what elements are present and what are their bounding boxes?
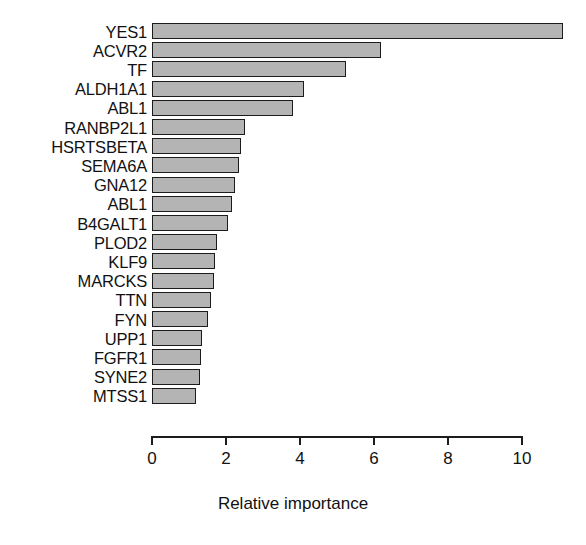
bar xyxy=(152,138,241,154)
bar-row: SYNE2 xyxy=(0,368,586,387)
bar-row: B4GALT1 xyxy=(0,214,586,233)
bar-row: ACVR2 xyxy=(0,41,586,60)
category-label: YES1 xyxy=(106,23,147,40)
bar xyxy=(152,177,235,193)
x-axis-tick-label: 4 xyxy=(295,450,304,467)
bar xyxy=(152,196,232,212)
x-axis-tick xyxy=(447,436,449,445)
bar-row: GNA12 xyxy=(0,176,586,195)
bar xyxy=(152,234,217,250)
relative-importance-bar-chart: YES1ACVR2TFALDH1A1ABL1RANBP2L1HSRTSBETAS… xyxy=(0,0,586,545)
bar-row: FYN xyxy=(0,310,586,329)
bar-row: ABL1 xyxy=(0,195,586,214)
x-axis-tick-label: 2 xyxy=(221,450,230,467)
bar-row: ALDH1A1 xyxy=(0,80,586,99)
bar xyxy=(152,388,196,404)
bar-row: PLOD2 xyxy=(0,233,586,252)
category-label: SYNE2 xyxy=(94,369,147,386)
bar xyxy=(152,157,239,173)
bar xyxy=(152,100,293,116)
bar-row: ABL1 xyxy=(0,99,586,118)
bar xyxy=(152,349,201,365)
category-label: GNA12 xyxy=(94,177,147,194)
bar-row: MTSS1 xyxy=(0,387,586,406)
category-label: UPP1 xyxy=(105,330,147,347)
x-axis-tick-label: 6 xyxy=(369,450,378,467)
bar xyxy=(152,119,245,135)
category-label: RANBP2L1 xyxy=(64,119,147,136)
bar-row: HSRTSBETA xyxy=(0,137,586,156)
category-label: FYN xyxy=(115,311,147,328)
x-axis-tick xyxy=(373,436,375,445)
category-label: HSRTSBETA xyxy=(51,138,147,155)
category-label: B4GALT1 xyxy=(77,215,147,232)
bar xyxy=(152,369,200,385)
bar-row: UPP1 xyxy=(0,329,586,348)
category-label: TTN xyxy=(116,292,147,309)
bar xyxy=(152,273,214,289)
bar xyxy=(152,61,346,77)
category-label: ALDH1A1 xyxy=(75,81,147,98)
category-label: ABL1 xyxy=(107,100,147,117)
bar xyxy=(152,311,208,327)
category-label: ABL1 xyxy=(107,196,147,213)
x-axis-tick xyxy=(299,436,301,445)
x-axis-tick xyxy=(151,436,153,445)
x-axis-tick-label: 8 xyxy=(443,450,452,467)
bar xyxy=(152,81,304,97)
bar xyxy=(152,42,381,58)
bar xyxy=(152,292,211,308)
category-label: SEMA6A xyxy=(81,158,147,175)
x-axis-tick-label: 10 xyxy=(513,450,532,467)
category-label: MTSS1 xyxy=(93,388,147,405)
plot-area: YES1ACVR2TFALDH1A1ABL1RANBP2L1HSRTSBETAS… xyxy=(0,0,586,425)
x-axis-tick xyxy=(521,436,523,445)
bar-row: RANBP2L1 xyxy=(0,118,586,137)
category-label: KLF9 xyxy=(108,254,147,271)
category-label: PLOD2 xyxy=(94,234,147,251)
x-axis-title: Relative importance xyxy=(0,494,586,514)
bar-row: YES1 xyxy=(0,22,586,41)
bar-row: SEMA6A xyxy=(0,156,586,175)
x-axis-tick-label: 0 xyxy=(147,450,156,467)
bar-row: TF xyxy=(0,60,586,79)
bar-row: TTN xyxy=(0,291,586,310)
bar xyxy=(152,253,215,269)
bar xyxy=(152,23,563,39)
x-axis-tick xyxy=(225,436,227,445)
bar-row: FGFR1 xyxy=(0,348,586,367)
x-axis: 0246810 xyxy=(0,436,586,466)
bar xyxy=(152,330,202,346)
category-label: FGFR1 xyxy=(94,350,147,367)
category-label: TF xyxy=(127,62,147,79)
category-label: ACVR2 xyxy=(93,42,147,59)
bar xyxy=(152,215,228,231)
bar-row: MARCKS xyxy=(0,272,586,291)
bar-row: KLF9 xyxy=(0,252,586,271)
x-axis-line xyxy=(152,436,523,438)
category-label: MARCKS xyxy=(78,273,147,290)
